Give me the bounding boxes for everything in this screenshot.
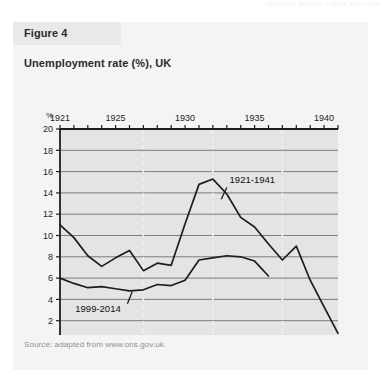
figure-panel: Figure 4 Unemployment rate (%), UK 02468… (13, 22, 368, 370)
figure-source-caption: Source: adapted from www.ons.gov.uk. (24, 340, 166, 349)
figure-number-label: Figure 4 (24, 27, 68, 39)
y-axis-tick-label: 16 (43, 167, 53, 177)
y-axis-tick-label: 6 (48, 273, 53, 283)
running-header: Appendix Section 4 Data and more (150, 0, 380, 10)
y-axis-tick-label: 20 (43, 124, 53, 134)
y-axis-tick-label: 4 (48, 295, 53, 305)
y-axis-tick-label: 14 (43, 188, 53, 198)
top-axis-tick-label: 1930 (175, 113, 195, 123)
y-axis-tick-label: 12 (43, 209, 53, 219)
figure-title: Unemployment rate (%), UK (24, 57, 171, 69)
top-axis-tick-label: 1921 (50, 113, 70, 123)
top-axis-tick-label: 1935 (245, 113, 265, 123)
figure-page: Appendix Section 4 Data and more Figure … (0, 0, 382, 382)
y-axis-tick-label: 2 (48, 316, 53, 326)
unemployment-line-chart: 02468101214161820%1921192519301935194020… (13, 80, 368, 335)
chart-container: 02468101214161820%1921192519301935194020… (13, 80, 368, 335)
y-axis-tick-label: 10 (43, 231, 53, 241)
figure-header-bar: Figure 4 (13, 22, 121, 45)
top-axis-tick-label: 1925 (106, 113, 126, 123)
top-axis-tick-label: 1940 (314, 113, 334, 123)
y-axis-tick-label: 8 (48, 252, 53, 262)
series-annotation-1921-1941: 1921-1941 (230, 174, 275, 185)
y-axis-tick-label: 18 (43, 146, 53, 156)
series-annotation-1999-2014: 1999-2014 (75, 303, 120, 314)
